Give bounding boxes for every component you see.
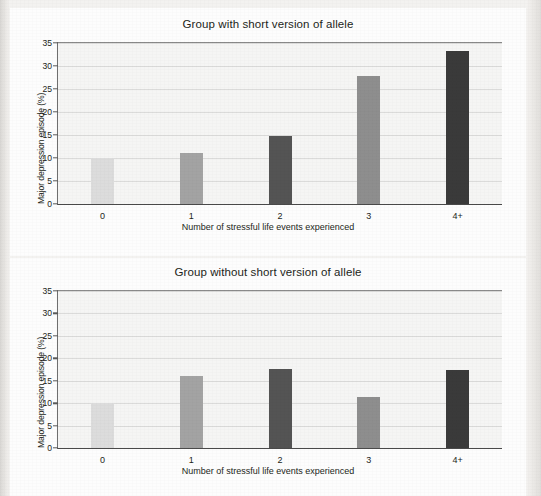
bar-4plus <box>446 370 469 448</box>
x-axis-tick-label: 2 <box>277 211 282 221</box>
y-axis-tick-mark <box>53 402 58 403</box>
gridline <box>58 291 502 292</box>
bar-4plus <box>446 51 469 204</box>
y-axis-tick-label: 15 <box>42 130 52 140</box>
y-axis-tick-mark <box>53 447 58 448</box>
bar-2 <box>269 369 292 448</box>
y-axis-tick-mark <box>53 65 58 66</box>
y-axis-tick-label: 10 <box>42 398 52 408</box>
gridline <box>58 358 502 359</box>
y-axis-tick-mark <box>53 358 58 359</box>
y-axis-tick-mark <box>53 203 58 204</box>
gridline <box>58 43 502 44</box>
y-axis-tick-mark <box>53 134 58 135</box>
bar-2 <box>269 136 292 204</box>
y-axis-tick-label: 25 <box>42 84 52 94</box>
bar-1 <box>180 153 203 204</box>
y-axis-tick-label: 10 <box>42 153 52 163</box>
plot-wrapper-bottom: Major depression episode (%) 05101520253… <box>10 258 526 496</box>
x-axis-tick-label: 1 <box>189 455 194 465</box>
bar-1 <box>180 376 203 448</box>
gridline <box>58 89 502 90</box>
y-axis-tick-label: 35 <box>42 38 52 48</box>
x-axis-label-top: Number of stressful life events experien… <box>10 222 526 232</box>
y-axis-tick-mark <box>53 180 58 181</box>
figure-group-with-allele: Group with short version of allele Major… <box>10 8 526 256</box>
y-axis-tick-label: 20 <box>42 107 52 117</box>
gridline <box>58 336 502 337</box>
y-axis-tick-label: 5 <box>47 421 52 431</box>
x-axis-tick-label: 4+ <box>452 455 462 465</box>
bar-3 <box>357 76 380 204</box>
x-axis-tick-label: 3 <box>366 211 371 221</box>
page-left-margin <box>0 0 9 496</box>
y-axis-tick-label: 15 <box>42 376 52 386</box>
y-axis-tick-label: 30 <box>42 308 52 318</box>
y-axis-tick-mark <box>53 335 58 336</box>
y-axis-tick-mark <box>53 313 58 314</box>
scanned-page: Group with short version of allele Major… <box>0 0 541 496</box>
x-axis-tick-label: 0 <box>100 211 105 221</box>
x-axis-tick-label: 2 <box>277 455 282 465</box>
x-axis-tick-label: 1 <box>189 211 194 221</box>
y-axis-tick-label: 5 <box>47 176 52 186</box>
y-axis-tick-mark <box>53 111 58 112</box>
y-axis-tick-label: 0 <box>47 199 52 209</box>
y-axis-tick-label: 35 <box>42 286 52 296</box>
y-axis-tick-mark <box>53 380 58 381</box>
x-axis-tick-label: 4+ <box>452 211 462 221</box>
y-axis-tick-label: 0 <box>47 443 52 453</box>
page-right-margin <box>527 0 541 496</box>
y-axis-tick-mark <box>53 42 58 43</box>
bar-0 <box>91 158 114 204</box>
bar-0 <box>91 403 114 448</box>
x-axis-label-bottom: Number of stressful life events experien… <box>10 466 526 476</box>
plot-area-bottom: 0510152025303501234+ <box>57 290 502 449</box>
y-axis-tick-label: 30 <box>42 61 52 71</box>
y-axis-tick-mark <box>53 425 58 426</box>
x-axis-tick-label: 3 <box>366 455 371 465</box>
gridline <box>58 66 502 67</box>
gridline <box>58 112 502 113</box>
plot-area-top: 0510152025303501234+ <box>57 42 502 205</box>
y-axis-tick-mark <box>53 290 58 291</box>
y-axis-tick-label: 25 <box>42 331 52 341</box>
bar-3 <box>357 397 380 448</box>
x-axis-tick-label: 0 <box>100 455 105 465</box>
plot-wrapper-top: Major depression episode (%) 05101520253… <box>10 8 526 256</box>
figure-group-without-allele: Group without short version of allele Ma… <box>10 258 526 496</box>
y-axis-tick-mark <box>53 157 58 158</box>
y-axis-tick-label: 20 <box>42 353 52 363</box>
gridline <box>58 313 502 314</box>
y-axis-tick-mark <box>53 88 58 89</box>
